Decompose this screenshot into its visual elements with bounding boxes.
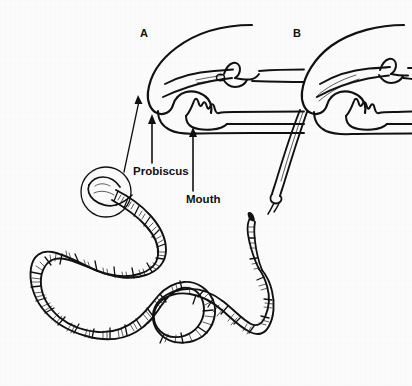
panel-a-body-wall-outer bbox=[148, 25, 252, 114]
worm-tail-inner-edge bbox=[248, 220, 260, 269]
panel-b-snout-tip bbox=[327, 91, 365, 113]
panel-b-proboscis-tip-sheath bbox=[271, 194, 282, 204]
panel-b-duct-dorsal-2 bbox=[403, 78, 412, 79]
worm-body-group bbox=[30, 177, 273, 343]
worm-hatch bbox=[259, 284, 266, 286]
panel-b-mouth-lower-lip bbox=[346, 116, 387, 130]
worm-ring bbox=[114, 191, 118, 201]
magnifier-leader-line bbox=[124, 101, 139, 172]
panel-b-body-wall-outer bbox=[302, 25, 404, 114]
panel-b-gut-upper-right bbox=[393, 112, 412, 113]
worm-ring bbox=[152, 230, 159, 237]
worm-ring bbox=[257, 277, 264, 280]
worm-head-inner-crease bbox=[95, 184, 110, 186]
panel-a-group bbox=[148, 25, 304, 134]
worm-head-inner-crease-2 bbox=[94, 191, 114, 195]
worm-hatch bbox=[205, 316, 214, 317]
panel-a-duct-dorsal-2 bbox=[252, 81, 304, 82]
proboscis-arrow-head bbox=[148, 114, 156, 124]
worm-hatch bbox=[149, 223, 153, 227]
worm-head-upper-outline bbox=[89, 177, 120, 187]
worm-ring bbox=[31, 272, 41, 274]
worm-ring bbox=[193, 295, 196, 304]
worm-hatch bbox=[131, 204, 134, 209]
worm-hatch bbox=[143, 314, 148, 320]
worm-hatch bbox=[196, 330, 202, 337]
worm-hatch bbox=[142, 214, 145, 219]
worm-hatch bbox=[55, 254, 56, 261]
worm-ring bbox=[147, 308, 153, 316]
worm-head-lower-outline bbox=[88, 185, 116, 206]
worm-hatch bbox=[265, 303, 273, 304]
worm-ring bbox=[136, 319, 141, 327]
worm-hatch bbox=[158, 255, 165, 256]
panel-b-ventral-floor-right bbox=[352, 134, 412, 135]
panel-a-rhynchocoel-upper bbox=[165, 70, 233, 85]
worm-hatch bbox=[118, 195, 121, 200]
panel-b-proboscis-extended-left-edge bbox=[272, 110, 300, 194]
worm-hatch bbox=[189, 334, 192, 341]
worm-hatch bbox=[152, 227, 156, 231]
worm-hatch bbox=[139, 211, 142, 216]
panel-b-terminal-stylet bbox=[268, 203, 274, 214]
worm-hatch bbox=[40, 262, 45, 267]
panel-b-stylet-arm-upper bbox=[391, 74, 408, 76]
worm-hatch bbox=[130, 324, 134, 331]
worm-ring bbox=[250, 258, 257, 259]
panel-a-duct-dorsal-1 bbox=[259, 70, 304, 72]
worm-ring bbox=[198, 327, 207, 333]
panel-b-proboscis-extended-centerline bbox=[281, 112, 303, 181]
worm-hatch bbox=[32, 278, 41, 279]
worm-hatch bbox=[36, 266, 42, 270]
worm-hatch bbox=[203, 322, 212, 325]
anatomy-illustration: A B Probiscus Mouth bbox=[0, 0, 412, 386]
magnifier-leader-arrowhead bbox=[135, 95, 143, 104]
magnifier-group bbox=[81, 95, 143, 217]
worm-hatch bbox=[156, 236, 161, 239]
panel-b-letter: B bbox=[293, 27, 301, 39]
worm-ring bbox=[144, 217, 150, 226]
worm-ring bbox=[181, 333, 183, 343]
figure-root: A B Probiscus Mouth bbox=[0, 0, 412, 386]
panel-a-mouth-lower-lip bbox=[186, 116, 227, 130]
worm-hatch bbox=[133, 322, 137, 329]
panel-b-esophagus-upper-crenellated bbox=[346, 99, 393, 116]
panel-b-group bbox=[268, 25, 412, 214]
worm-ring bbox=[134, 206, 139, 216]
mouth-label: Mouth bbox=[186, 193, 220, 205]
panel-a-letter: A bbox=[140, 27, 148, 39]
worm-hatch bbox=[264, 307, 272, 308]
proboscis-label: Probiscus bbox=[133, 165, 189, 177]
panel-a-gut-upper-right bbox=[233, 112, 304, 113]
worm-ring bbox=[92, 329, 94, 338]
worm-hatch bbox=[158, 240, 163, 243]
panel-a-ventral-floor-right bbox=[196, 133, 304, 134]
worm-ring bbox=[264, 299, 272, 300]
